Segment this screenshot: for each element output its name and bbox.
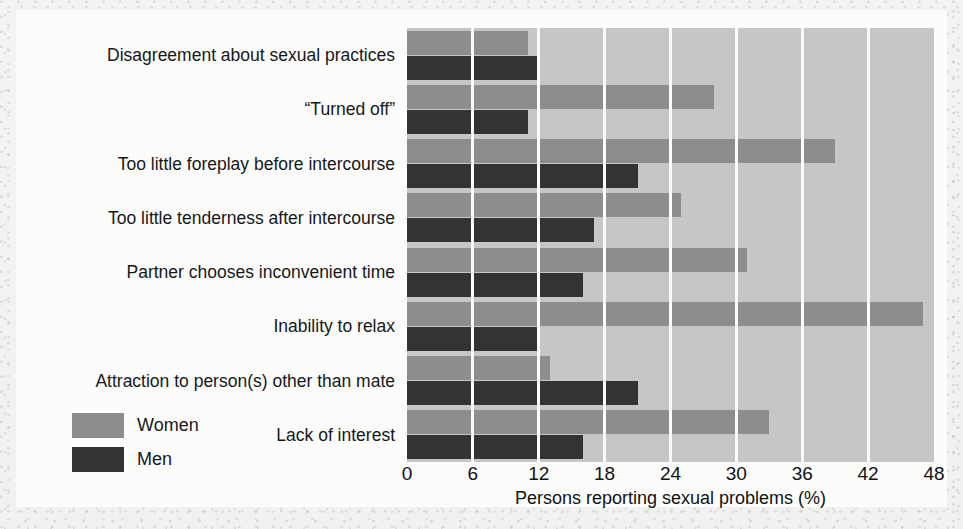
x-axis-title: Persons reporting sexual problems (%): [407, 488, 934, 509]
x-tick-18: 18: [594, 462, 615, 486]
gridline-12: [537, 28, 540, 462]
bar-women-4: [407, 248, 747, 272]
chart-page: Disagreement about sexual practices“Turn…: [0, 0, 963, 529]
gridline-30: [735, 28, 738, 462]
x-axis-ticks: 0612182430364248: [407, 462, 934, 488]
x-tick-30: 30: [726, 462, 747, 486]
category-label-3: Too little tenderness after intercourse: [108, 208, 395, 228]
legend-swatch-women: [72, 413, 124, 438]
category-label-1: “Turned off”: [305, 99, 395, 119]
category-label-2: Too little foreplay before intercourse: [118, 154, 395, 174]
legend-label-women: Women: [137, 415, 199, 436]
x-tick-12: 12: [528, 462, 549, 486]
gridline-36: [801, 28, 804, 462]
bar-women-5: [407, 302, 923, 326]
bar-men-3: [407, 218, 594, 242]
category-label-5: Inability to relax: [273, 316, 395, 336]
bar-women-6: [407, 356, 550, 380]
gridline-18: [603, 28, 606, 462]
legend-item-women[interactable]: Women: [72, 410, 199, 440]
x-tick-24: 24: [660, 462, 681, 486]
x-tick-42: 42: [858, 462, 879, 486]
bar-men-1: [407, 110, 528, 134]
bar-women-3: [407, 193, 681, 217]
category-label-4: Partner chooses inconvenient time: [127, 262, 395, 282]
x-tick-6: 6: [468, 462, 479, 486]
x-tick-0: 0: [402, 462, 413, 486]
chart-legend: WomenMen: [72, 410, 199, 478]
bar-women-0: [407, 31, 528, 55]
bar-men-4: [407, 273, 583, 297]
plot-area: [407, 28, 934, 462]
gridline-24: [669, 28, 672, 462]
gridline-6: [471, 28, 474, 462]
chart-paper: Disagreement about sexual practices“Turn…: [16, 10, 947, 507]
category-axis-labels: Disagreement about sexual practices“Turn…: [16, 28, 395, 462]
legend-label-men: Men: [137, 449, 172, 470]
legend-item-men[interactable]: Men: [72, 444, 199, 474]
x-tick-48: 48: [923, 462, 944, 486]
x-tick-36: 36: [792, 462, 813, 486]
category-label-6: Attraction to person(s) other than mate: [95, 371, 395, 391]
category-label-0: Disagreement about sexual practices: [107, 45, 395, 65]
legend-swatch-men: [72, 447, 124, 472]
gridline-42: [867, 28, 870, 462]
category-label-7: Lack of interest: [276, 425, 395, 445]
bar-women-7: [407, 410, 769, 434]
bar-men-7: [407, 435, 583, 459]
